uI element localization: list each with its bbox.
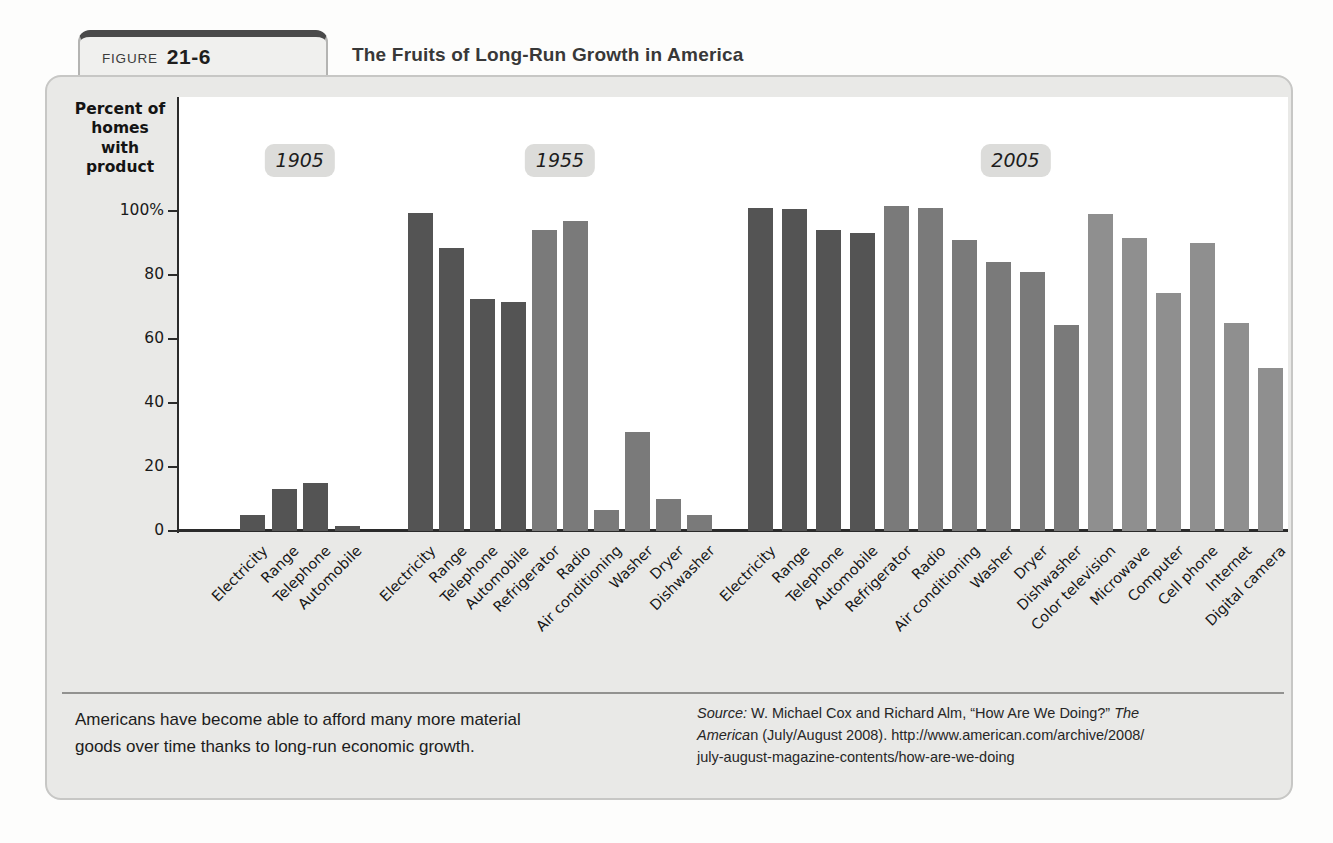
bar-1905-automobile: [335, 526, 360, 531]
figure-caption: Americans have become able to afford man…: [75, 706, 675, 760]
y-tick-label-20: 20: [104, 457, 164, 475]
bar-2005-digital-camera: [1258, 368, 1283, 531]
y-tick-40: [168, 402, 177, 404]
bar-1955-range: [439, 248, 464, 531]
y-tick-0: [168, 530, 177, 532]
bar-2005-cell-phone: [1190, 243, 1215, 531]
y-tick-20: [168, 466, 177, 468]
source-label: Source:: [697, 705, 747, 721]
caption-divider: [62, 692, 1284, 694]
source-line2-head: America: [697, 727, 750, 743]
bar-1955-air-conditioning: [594, 510, 619, 531]
bar-1955-washer: [625, 432, 650, 531]
bar-1955-radio: [563, 221, 588, 531]
bar-1955-automobile: [501, 302, 526, 531]
bar-2005-electricity: [748, 208, 773, 531]
bar-2005-dishwasher: [1054, 325, 1079, 531]
bar-2005-radio: [918, 208, 943, 531]
bar-2005-air-conditioning: [952, 240, 977, 531]
source-note: Source: W. Michael Cox and Richard Alm, …: [697, 703, 1282, 768]
source-line1-text: W. Michael Cox and Richard Alm, “How Are…: [747, 705, 1114, 721]
year-badge-1905: 1905: [265, 144, 335, 177]
bar-2005-dryer: [1020, 272, 1045, 531]
bar-2005-color-television: [1088, 214, 1113, 531]
y-tick-label-60: 60: [104, 329, 164, 347]
source-line3-text: july-august-magazine-contents/how-are-we…: [697, 749, 1015, 765]
bar-1955-dryer: [656, 499, 681, 531]
y-tick-label-80: 80: [104, 265, 164, 283]
y-tick-60: [168, 338, 177, 340]
caption-line-2: goods over time thanks to long-run econo…: [75, 733, 675, 760]
bar-1905-electricity: [240, 515, 265, 531]
year-badge-2005: 2005: [980, 144, 1050, 177]
bar-1905-range: [272, 489, 297, 531]
bar-2005-microwave: [1122, 238, 1147, 531]
year-badge-1955: 1955: [525, 144, 595, 177]
y-tick-label-40: 40: [104, 393, 164, 411]
bar-2005-washer: [986, 262, 1011, 531]
bar-1955-dishwasher: [687, 515, 712, 531]
source-line2-text: (July/August 2008). http://www.american.…: [758, 727, 1144, 743]
y-tick-label-0: 0: [104, 521, 164, 539]
bar-1955-refrigerator: [532, 230, 557, 531]
bar-2005-refrigerator: [884, 206, 909, 531]
bar-1955-electricity: [408, 213, 433, 531]
source-line1-tail: The: [1114, 705, 1139, 721]
bar-2005-computer: [1156, 293, 1181, 531]
caption-line-1: Americans have become able to afford man…: [75, 706, 675, 733]
y-tick-label-100: 100%: [104, 201, 164, 219]
bar-1955-telephone: [470, 299, 495, 531]
bar-2005-range: [782, 209, 807, 531]
y-tick-100: [168, 210, 177, 212]
bar-2005-telephone: [816, 230, 841, 531]
bar-2005-internet: [1224, 323, 1249, 531]
y-tick-80: [168, 274, 177, 276]
bar-1905-telephone: [303, 483, 328, 531]
bar-2005-automobile: [850, 233, 875, 531]
